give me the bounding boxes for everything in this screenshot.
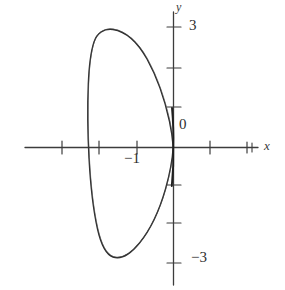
x-axis-label: x — [264, 138, 270, 154]
tick-label-y-3: 3 — [189, 17, 197, 34]
plot-figure: y x 3 0 −1 −3 — [0, 0, 285, 290]
tick-label-y-neg3: −3 — [191, 249, 207, 266]
tick-label-origin: 0 — [179, 116, 187, 133]
plot-canvas — [0, 0, 285, 290]
tick-label-x-neg1: −1 — [124, 150, 140, 167]
closed-loop-curve — [88, 29, 173, 257]
y-axis-label: y — [176, 0, 181, 15]
